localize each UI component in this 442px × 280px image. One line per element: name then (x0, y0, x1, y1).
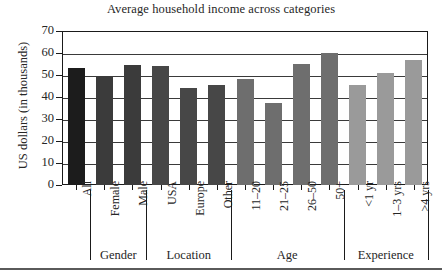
x-tick-label: Female (109, 181, 121, 243)
bar-series (62, 31, 428, 185)
bar (152, 66, 169, 185)
x-tick-mark (273, 185, 274, 190)
y-tick-label: 10 (18, 156, 54, 169)
bar (96, 77, 113, 185)
group-separator (231, 190, 232, 260)
x-tick-label: 11–20 (250, 181, 262, 243)
y-tick-label: 40 (18, 90, 54, 103)
group-separator (428, 190, 429, 260)
x-tick-label: All (81, 181, 93, 243)
y-tick-label: 30 (18, 112, 54, 125)
bottom-rule (0, 268, 442, 270)
bar (180, 88, 197, 185)
bar (321, 53, 338, 185)
bar (265, 103, 282, 186)
group-label: Location (139, 249, 239, 262)
x-tick-label: 50+ (334, 181, 346, 243)
x-tick-mark (414, 185, 415, 190)
y-tick-label: 0 (18, 178, 54, 191)
bar (405, 60, 422, 185)
x-tick-mark (386, 185, 387, 190)
x-tick-mark (76, 185, 77, 190)
x-tick-label: USA (166, 181, 178, 243)
y-tick-label: 20 (18, 134, 54, 147)
bar (208, 85, 225, 185)
chart-figure: Average household income across categori… (0, 0, 442, 280)
x-tick-mark (161, 185, 162, 190)
x-tick-label: 21–25 (278, 181, 290, 243)
bar (237, 79, 254, 185)
x-tick-mark (132, 185, 133, 190)
y-tick-label: 50 (18, 68, 54, 81)
group-label: Age (237, 249, 337, 262)
bar (124, 65, 141, 185)
x-tick-label: Male (137, 181, 149, 243)
y-tick-mark (56, 185, 62, 186)
x-tick-mark (301, 185, 302, 190)
bar (349, 85, 366, 185)
x-tick-mark (358, 185, 359, 190)
x-tick-mark (217, 185, 218, 190)
bar (293, 64, 310, 185)
x-tick-mark (245, 185, 246, 190)
x-tick-mark (329, 185, 330, 190)
x-tick-label: Europe (194, 181, 206, 243)
x-tick-mark (104, 185, 105, 190)
x-tick-label: Other (222, 181, 234, 243)
x-tick-label: 26–50 (306, 181, 318, 243)
y-tick-label: 60 (18, 46, 54, 59)
chart-title: Average household income across categori… (0, 2, 442, 17)
x-tick-label: 1–3 yrs (391, 181, 403, 243)
x-tick-mark (189, 185, 190, 190)
bar (68, 68, 85, 185)
x-tick-label: >4 yrs (419, 181, 431, 243)
x-tick-label: <1 yr (363, 181, 375, 243)
bar (377, 73, 394, 185)
group-label: Experience (336, 249, 436, 262)
y-tick-label: 70 (18, 24, 54, 37)
